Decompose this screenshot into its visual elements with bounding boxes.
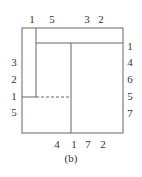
caption: (b) bbox=[65, 152, 78, 165]
bottom-label: 1 bbox=[71, 138, 77, 150]
top-label: 3 bbox=[84, 13, 90, 25]
bottom-label: 4 bbox=[54, 138, 60, 150]
top-label: 2 bbox=[98, 13, 104, 25]
bottom-label: 2 bbox=[100, 138, 106, 150]
outer-box bbox=[22, 28, 123, 133]
bottom-label: 7 bbox=[85, 138, 91, 150]
top-label: 1 bbox=[29, 13, 35, 25]
left-label: 3 bbox=[11, 56, 17, 68]
grid-diagram: 1 5 3 2 3 2 1 5 1 4 6 5 7 4 1 7 2 (b) bbox=[0, 0, 142, 177]
right-label: 1 bbox=[127, 40, 133, 52]
left-label: 1 bbox=[11, 90, 17, 102]
top-label: 5 bbox=[49, 13, 55, 25]
right-label: 6 bbox=[127, 73, 133, 85]
right-label: 5 bbox=[127, 90, 133, 102]
right-label: 4 bbox=[127, 56, 133, 68]
right-label: 7 bbox=[127, 107, 133, 119]
left-label: 2 bbox=[11, 73, 17, 85]
left-label: 5 bbox=[11, 106, 17, 118]
